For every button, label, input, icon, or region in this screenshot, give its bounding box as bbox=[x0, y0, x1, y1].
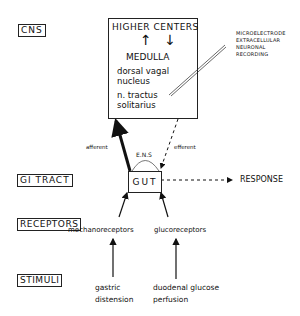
nts-label: n. tractus bbox=[117, 90, 158, 100]
level-stimuli: STIMULI bbox=[17, 274, 62, 287]
nucleus-label: nucleus bbox=[117, 76, 150, 86]
mechano-arrow bbox=[119, 193, 127, 217]
glucoreceptors-label: glucoreceptors bbox=[154, 226, 206, 234]
recording-line4: RECORDING bbox=[236, 51, 268, 57]
gluco-arrow bbox=[161, 193, 168, 217]
response-label: RESPONSE bbox=[240, 175, 283, 184]
efferent-label: efferent bbox=[174, 144, 196, 150]
mechanoreceptors-label: mechanoreceptors bbox=[68, 226, 134, 234]
level-gi-tract: GI TRACT bbox=[17, 174, 73, 187]
recording-line3: NEURONAL bbox=[236, 44, 266, 50]
dorsal-vagal-label: dorsal vagal bbox=[117, 66, 169, 76]
gastric-label: gastric bbox=[95, 283, 121, 292]
gut-box: GUT bbox=[128, 171, 162, 193]
distension-label: distension bbox=[95, 295, 133, 304]
duodenal-glucose-label: duodenal glucose bbox=[153, 283, 219, 292]
ens-label: E.N.S bbox=[136, 151, 152, 158]
afferent-arrow bbox=[116, 121, 130, 171]
medulla-label: MEDULLA bbox=[126, 52, 169, 62]
recording-line2: EXTRACELLULAR bbox=[236, 37, 280, 43]
level-cns: CNS bbox=[18, 24, 46, 37]
afferent-label: afferent bbox=[86, 144, 108, 150]
recording-line1: MICROELECTRODE bbox=[236, 30, 286, 36]
ens-arc bbox=[132, 161, 159, 172]
solitarius-label: solitarius bbox=[117, 100, 156, 110]
higher-centers-label: HIGHER CENTERS bbox=[112, 22, 199, 32]
perfusion-label: perfusion bbox=[153, 295, 188, 304]
bidirectional-arrows: ↑ ↓ bbox=[140, 32, 180, 48]
